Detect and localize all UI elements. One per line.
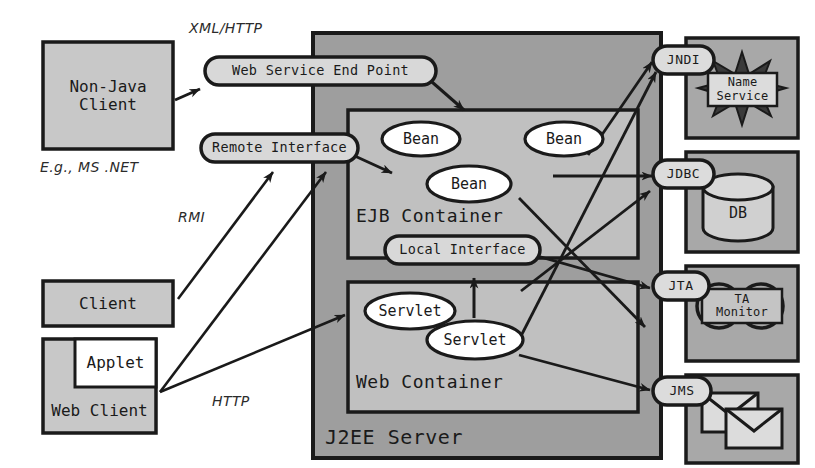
web-service-end-point-pill[interactable] [205, 57, 436, 85]
jms-pill[interactable] [653, 377, 711, 405]
jdbc-pill[interactable] [653, 160, 714, 188]
xml-http-label: XML/HTTP [189, 20, 262, 36]
rmi-label: RMI [178, 209, 205, 225]
servlet-2-ellipse[interactable] [427, 321, 523, 359]
jndi-pill[interactable] [653, 46, 714, 74]
bean-3-ellipse[interactable] [427, 166, 511, 202]
local-interface-pill[interactable] [385, 236, 540, 264]
jta-pill[interactable] [653, 272, 709, 300]
http-label: HTTP [212, 393, 250, 409]
bean-2-ellipse[interactable] [525, 122, 603, 156]
database-cylinder-icon [703, 174, 773, 241]
non-java-client-box [43, 42, 173, 149]
client-box [43, 281, 173, 326]
bean-1-ellipse[interactable] [382, 122, 460, 156]
j2ee-architecture-diagram: Non-Java Client Client Web Client Applet… [0, 0, 815, 468]
web-client-box [43, 339, 156, 433]
arrow-webclient-to-remote-interface [160, 172, 326, 392]
diagram-vector-layer [0, 0, 815, 468]
arrow-nonjava-to-endpoint [175, 89, 200, 100]
remote-interface-pill[interactable] [201, 134, 358, 162]
servlet-1-ellipse[interactable] [365, 293, 455, 329]
eg-ms-net-label: E.g., MS .NET [40, 159, 138, 175]
arrow-client-to-remote-interface [178, 172, 273, 299]
